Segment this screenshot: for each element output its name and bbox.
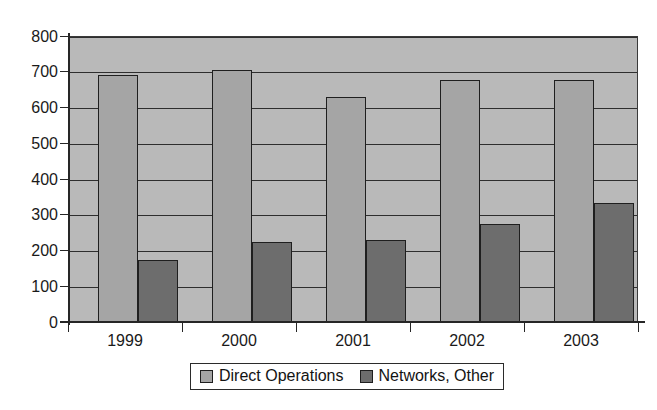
bars-layer [68, 36, 638, 322]
legend-label: Networks, Other [379, 368, 495, 384]
x-axis-line [60, 321, 645, 323]
legend-swatch-icon [200, 370, 213, 383]
x-axis-tick [638, 323, 639, 332]
bar-networks-other-1999 [138, 260, 178, 322]
x-tick-label: 2002 [410, 333, 524, 349]
legend-label: Direct Operations [219, 368, 344, 384]
bar-networks-other-2001 [366, 240, 406, 322]
x-tick-label: 2000 [182, 333, 296, 349]
legend-swatch-icon [360, 370, 373, 383]
x-axis-tick [296, 323, 297, 332]
bar-networks-other-2003 [594, 203, 634, 322]
x-axis-labels: 1999 2000 2001 2002 2003 [68, 333, 638, 357]
y-tick-label: 0 [2, 315, 58, 331]
x-axis-tick [524, 323, 525, 332]
y-tick-label: 600 [2, 100, 58, 116]
bar-direct-operations-2000 [212, 70, 252, 322]
x-tick-label: 1999 [68, 333, 182, 349]
x-tick-label: 2001 [296, 333, 410, 349]
x-axis-tick [410, 323, 411, 332]
bar-networks-other-2002 [480, 224, 520, 322]
x-axis-tick [68, 323, 69, 332]
y-tick-label: 300 [2, 207, 58, 223]
x-tick-label: 2003 [524, 333, 638, 349]
y-tick-label: 400 [2, 172, 58, 188]
y-tick-label: 200 [2, 243, 58, 259]
y-tick-label: 100 [2, 279, 58, 295]
y-tick-label: 700 [2, 64, 58, 80]
bar-direct-operations-2002 [440, 80, 480, 322]
x-axis-tick [182, 323, 183, 332]
y-axis-line [68, 33, 70, 325]
y-axis-labels: 800 700 600 500 400 300 200 100 0 [0, 0, 58, 410]
legend-entry-networks-other: Networks, Other [360, 368, 495, 384]
bar-direct-operations-2003 [554, 80, 594, 322]
legend-entry-direct-operations: Direct Operations [200, 368, 344, 384]
bar-direct-operations-2001 [326, 97, 366, 322]
chart-legend: Direct Operations Networks, Other [190, 363, 504, 390]
bar-chart: 800 700 600 500 400 300 200 100 0 [0, 0, 657, 410]
y-tick-label: 500 [2, 136, 58, 152]
bar-direct-operations-1999 [98, 75, 138, 322]
y-tick-label: 800 [2, 29, 58, 45]
bar-networks-other-2000 [252, 242, 292, 322]
